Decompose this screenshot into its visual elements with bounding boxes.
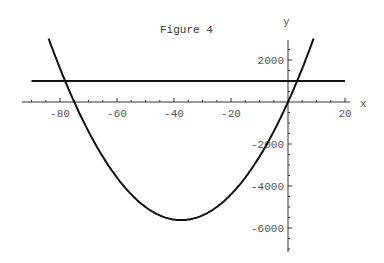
chart-figure: Figure 4 -80-60-40-2020 x 2000-2000-4000… xyxy=(0,0,384,263)
x-tick-label: -20 xyxy=(221,108,241,120)
x-tick-label: -80 xyxy=(50,108,70,120)
chart-title: Figure 4 xyxy=(160,24,213,36)
y-axis-ticks: 2000-2000-4000-6000 xyxy=(251,50,292,250)
x-tick-label: -40 xyxy=(164,108,184,120)
x-axis-label: x xyxy=(360,98,367,110)
y-axis-label: y xyxy=(283,16,290,28)
y-tick-label: -2000 xyxy=(251,139,284,151)
x-tick-label: 20 xyxy=(338,108,351,120)
y-tick-label: -4000 xyxy=(251,181,284,193)
y-tick-label: -6000 xyxy=(251,223,284,235)
y-tick-label: 2000 xyxy=(258,55,284,67)
x-tick-label: -60 xyxy=(107,108,127,120)
x-axis-ticks: -80-60-40-2020 xyxy=(32,98,352,120)
